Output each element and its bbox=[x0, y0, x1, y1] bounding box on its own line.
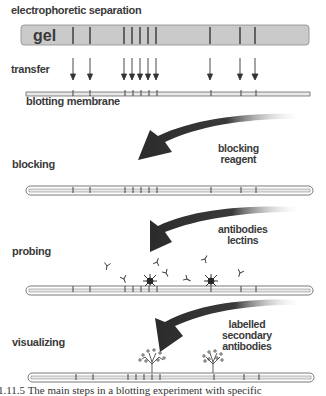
antibody-icons bbox=[103, 254, 243, 284]
gel: gel bbox=[21, 25, 309, 45]
blocking-arrow-icon bbox=[138, 114, 300, 160]
visualizing-arrow-icon bbox=[155, 300, 300, 352]
blocking-membrane bbox=[26, 186, 313, 195]
probing-arrow-icon bbox=[150, 206, 300, 252]
gel-label: gel bbox=[33, 27, 56, 44]
blotting-membrane bbox=[26, 90, 310, 96]
probing-membrane bbox=[26, 286, 313, 295]
figure-caption: 1.11.5 The main steps in a blotting expe… bbox=[0, 384, 262, 396]
labelled-secondary-antibody-icons bbox=[139, 349, 223, 374]
visualizing-membrane bbox=[28, 373, 314, 382]
transfer-arrows bbox=[71, 58, 259, 80]
